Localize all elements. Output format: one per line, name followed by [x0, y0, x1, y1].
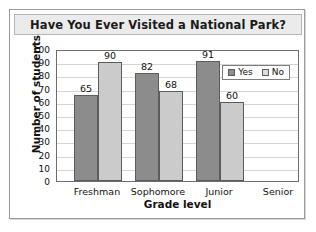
y-tick-label-10: 10	[22, 164, 50, 173]
legend-swatch-no-icon	[262, 69, 269, 76]
y-tick-label-40: 40	[22, 125, 50, 134]
y-tick-label-90: 90	[22, 59, 50, 68]
y-tick-label-30: 30	[22, 138, 50, 147]
y-tick-label-80: 80	[22, 72, 50, 81]
bar-value-junior-no: 60	[226, 91, 238, 101]
chart-title: Have You Ever Visited a National Park?	[30, 18, 286, 32]
bar-value-freshman-no: 90	[104, 51, 116, 61]
chart-legend: Yes No	[222, 65, 290, 80]
legend-label-yes: Yes	[238, 68, 253, 77]
x-tick-label-freshman: Freshman	[74, 186, 120, 197]
bar-junior-no[interactable]	[220, 102, 244, 181]
legend-item-yes[interactable]: Yes	[228, 68, 253, 77]
y-tick-label-70: 70	[22, 85, 50, 94]
legend-item-no[interactable]: No	[262, 68, 284, 77]
bar-sophomore-no[interactable]	[159, 91, 183, 181]
bar-freshman-no[interactable]	[98, 62, 122, 181]
bar-freshman-yes[interactable]	[74, 95, 98, 181]
plot-area: 65 90 82 68 91 60 Yes No	[56, 50, 299, 182]
bar-value-sophomore-no: 68	[165, 80, 177, 90]
y-tick-label-20: 20	[22, 151, 50, 160]
bar-sophomore-yes[interactable]	[135, 73, 159, 181]
x-tick-label-sophomore: Sophomore	[131, 186, 185, 197]
chart-title-banner: Have You Ever Visited a National Park?	[14, 14, 302, 35]
bar-value-junior-yes: 91	[202, 50, 214, 60]
x-tick-label-senior: Senior	[263, 186, 293, 197]
y-tick-label-60: 60	[22, 98, 50, 107]
y-tick-label-100: 100	[22, 46, 50, 55]
chart-body: Number of students 100 90 80 70 60 50 40…	[14, 36, 302, 216]
legend-label-no: No	[272, 68, 284, 77]
x-axis-title: Grade level	[56, 198, 299, 210]
legend-swatch-yes-icon	[228, 69, 235, 76]
chart-figure-frame: Have You Ever Visited a National Park? N…	[9, 9, 305, 219]
bar-value-freshman-yes: 65	[80, 84, 92, 94]
bar-value-sophomore-yes: 82	[141, 62, 153, 72]
x-tick-label-junior: Junior	[205, 186, 232, 197]
bar-junior-yes[interactable]	[196, 61, 220, 181]
y-tick-label-0: 0	[22, 178, 50, 187]
y-tick-label-50: 50	[22, 112, 50, 121]
